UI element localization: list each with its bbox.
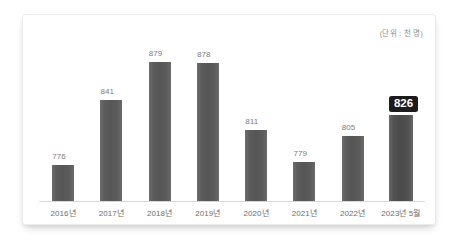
value-label: 779 <box>293 150 307 158</box>
value-label: 879 <box>149 50 163 58</box>
category-label: 2019년 <box>184 207 232 218</box>
bar-highlighted: 826 <box>389 115 413 201</box>
plot-area: 776841879878811779805826 <box>39 51 425 202</box>
category-label: 2021년 <box>280 207 328 218</box>
bar: 878 <box>197 63 219 201</box>
bar-group: 776841879878811779805826 <box>39 51 425 201</box>
category-label: 2018년 <box>136 207 184 218</box>
value-label: 878 <box>197 51 211 59</box>
bar-column: 826 <box>377 51 425 201</box>
category-axis: 2016년2017년2018년2019년2020년2021년2022년2023년… <box>39 207 425 218</box>
chart-screenshot: (단위 : 천 명) 776841879878811779805826 2016… <box>0 0 458 249</box>
category-label: 2020년 <box>232 207 280 218</box>
value-label: 811 <box>245 118 258 126</box>
bar-column: 879 <box>136 51 184 201</box>
bar: 811 <box>245 130 267 201</box>
category-label: 2023년 5월 <box>377 207 425 218</box>
category-label: 2017년 <box>87 207 135 218</box>
value-label-highlighted: 826 <box>389 96 418 113</box>
value-label: 776 <box>52 153 66 161</box>
value-label: 805 <box>342 124 356 132</box>
bar-column: 805 <box>329 51 377 201</box>
bar: 841 <box>100 100 122 201</box>
category-label: 2022년 <box>329 207 377 218</box>
value-label: 841 <box>100 88 114 96</box>
bar-column: 841 <box>87 51 135 201</box>
x-axis-line <box>39 201 425 202</box>
category-label: 2016년 <box>39 207 87 218</box>
unit-note: (단위 : 천 명) <box>380 27 423 38</box>
bar-column: 776 <box>39 51 87 201</box>
chart-card-inner: (단위 : 천 명) 776841879878811779805826 2016… <box>23 15 435 224</box>
bar: 779 <box>293 162 315 201</box>
bar-column: 779 <box>280 51 328 201</box>
bar: 805 <box>342 136 364 201</box>
bar: 879 <box>149 62 171 201</box>
chart-card: (단위 : 천 명) 776841879878811779805826 2016… <box>22 14 436 225</box>
bar-column: 811 <box>232 51 280 201</box>
bar: 776 <box>52 165 74 201</box>
bar-column: 878 <box>184 51 232 201</box>
